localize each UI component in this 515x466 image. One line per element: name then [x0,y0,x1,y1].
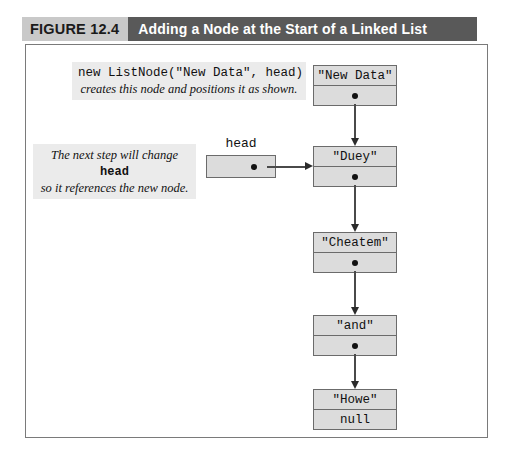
connector-new-data-to-duey-line [354,104,355,141]
pointer-dot-icon [352,343,358,349]
head-variable-label: head [206,136,276,151]
figure-caption-bar: FIGURE 12.4 Adding a Node at the Start o… [22,17,477,41]
annotation-new-node-code: new ListNode("New Data", head) [78,65,300,81]
connector-head-to-duey-arrowhead [305,162,313,170]
node-howe-value: "Howe" [314,390,396,410]
pointer-dot-icon [352,260,358,266]
annotation-new-node: new ListNode("New Data", head) creates t… [72,62,306,100]
connector-duey-to-cheatem-line [354,185,355,227]
connector-duey-to-cheatem-arrowhead [351,224,359,232]
node-new-data-value: "New Data" [314,66,396,86]
annotation-head-change-mono: head [100,165,129,179]
figure-frame [25,44,488,438]
node-and-link [314,336,396,355]
annotation-head-change-line-2: so it references the new node. [39,180,190,196]
node-cheatem-link [314,253,396,272]
connector-and-to-howe-arrowhead [351,381,359,389]
node-duey-value: "Duey" [314,147,396,167]
node-duey: "Duey" [313,146,397,187]
annotation-head-change: The next step will change head so it ref… [33,144,196,199]
node-and-value: "and" [314,316,396,336]
node-and: "and" [313,315,397,356]
pointer-dot-icon [251,164,257,170]
node-cheatem-value: "Cheatem" [314,233,396,253]
connector-cheatem-to-and-arrowhead [351,307,359,315]
annotation-head-change-prefix: The next step will change [51,148,178,162]
node-duey-link [314,167,396,186]
annotation-head-change-line-1: The next step will change head [39,147,190,180]
pointer-dot-icon [352,93,358,99]
node-howe: "Howe" null [313,389,397,430]
connector-cheatem-to-and-line [354,271,355,310]
figure-page: FIGURE 12.4 Adding a Node at the Start o… [0,0,515,466]
node-new-data-link [314,86,396,105]
node-cheatem: "Cheatem" [313,232,397,273]
pointer-dot-icon [352,174,358,180]
figure-number-label: FIGURE 12.4 [22,17,128,41]
connector-new-data-to-duey-arrowhead [351,138,359,146]
connector-head-to-duey-line [267,166,309,167]
annotation-new-node-description: creates this node and positions it as sh… [78,81,300,97]
node-howe-link: null [314,410,396,429]
figure-title: Adding a Node at the Start of a Linked L… [128,17,477,41]
head-variable-box [206,155,276,178]
node-new-data: "New Data" [313,65,397,106]
